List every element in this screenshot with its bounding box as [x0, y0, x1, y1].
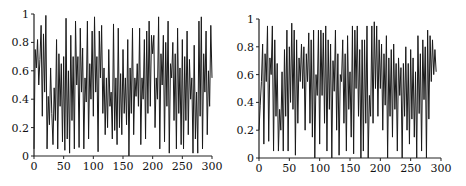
- y-tick-label: 1: [22, 8, 29, 21]
- x-tick-label: 0: [256, 162, 263, 175]
- right-line-plot: 00.20.40.60.81050100150200250300: [225, 0, 466, 186]
- y-tick-label: 0.4: [12, 93, 30, 106]
- y-tick-label: 0: [247, 152, 254, 165]
- x-tick-label: 200: [142, 160, 163, 173]
- x-tick-label: 150: [340, 162, 361, 175]
- x-tick-label: 250: [172, 160, 193, 173]
- y-tick-label: 0.2: [12, 122, 30, 135]
- y-tick-label: 0.8: [237, 41, 255, 54]
- right-chart: 00.20.40.60.81050100150200250300: [225, 0, 466, 186]
- x-tick-label: 100: [83, 160, 104, 173]
- x-tick-label: 250: [400, 162, 421, 175]
- x-tick-label: 100: [309, 162, 330, 175]
- left-chart: 00.20.40.60.81050100150200250300: [0, 0, 233, 186]
- x-tick-label: 300: [202, 160, 223, 173]
- y-tick-label: 0.2: [237, 124, 255, 137]
- series-line: [34, 15, 212, 156]
- x-tick-label: 0: [31, 160, 38, 173]
- y-tick-label: 0.4: [237, 96, 255, 109]
- x-tick-label: 50: [282, 162, 296, 175]
- y-tick-label: 0.6: [237, 69, 255, 82]
- x-tick-label: 50: [57, 160, 71, 173]
- x-tick-label: 150: [113, 160, 134, 173]
- x-tick-label: 300: [431, 162, 452, 175]
- x-tick-label: 200: [370, 162, 391, 175]
- y-tick-label: 1: [247, 13, 254, 26]
- y-tick-label: 0.6: [12, 65, 30, 78]
- left-line-plot: 00.20.40.60.81050100150200250300: [0, 0, 233, 186]
- series-line: [259, 22, 436, 158]
- y-tick-label: 0: [22, 150, 29, 163]
- y-tick-label: 0.8: [12, 36, 30, 49]
